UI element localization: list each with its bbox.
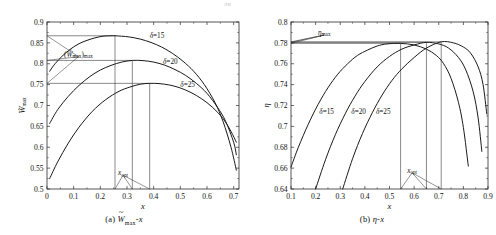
panel-b-plot: 0.10.20.30.40.50.60.70.80.90.640.660.680… (248, 0, 496, 235)
y-tick-label: 0.9 (34, 18, 44, 27)
x-tick-label: 0.6 (409, 192, 419, 201)
ann-subscript: opt (410, 169, 417, 175)
curve-δ=20 (316, 42, 482, 189)
x-tick-label: 0.7 (229, 192, 239, 201)
panel-a-caption-subscript: max (125, 220, 136, 226)
y-tick-label: 0.76 (274, 59, 287, 68)
panel-a-plot: 00.10.20.30.40.50.60.70.50.550.60.650.70… (0, 0, 248, 235)
ann-part: =20 (355, 108, 367, 116)
ann-subscript: opt (121, 172, 128, 178)
annotation-label: δ=25 (180, 81, 195, 89)
y-tick-label: 0.8 (34, 59, 44, 68)
y-tick-label: 0.66 (274, 164, 287, 173)
panel-a-caption: (a) Wmax-x (0, 214, 248, 226)
y-tick-label: 0.74 (274, 80, 287, 89)
annotation-label: xopt (406, 167, 417, 175)
ann-part: =25 (184, 81, 196, 89)
x-tick-label: 0.1 (286, 192, 296, 201)
y-tick-label: 0.6 (34, 143, 44, 152)
plot-area-a: 00.10.20.30.40.50.60.70.50.550.60.650.70… (17, 18, 239, 211)
y-tick-label: 0.64 (274, 185, 287, 194)
x-tick-label: 0.4 (149, 192, 159, 201)
curve-δ=15 (291, 43, 468, 167)
x-tick-label: 0.8 (459, 192, 469, 201)
annotation-label: δ=20 (351, 108, 366, 116)
y-tick-label: 0.75 (30, 80, 43, 89)
y-tick-label: 0.55 (30, 164, 43, 173)
y-tick-label: 0.8 (278, 18, 288, 27)
x-tick-label: 0 (45, 192, 49, 201)
y-axis-label: W̃max (17, 97, 27, 113)
leader-line (401, 173, 413, 189)
y-tick-label: 0.7 (278, 122, 288, 131)
annotation-label: δ=15 (150, 32, 165, 40)
x-tick-label: 0.1 (69, 192, 79, 201)
y-tick-label: 0.78 (274, 39, 287, 48)
x-tick-label: 0.3 (122, 192, 132, 201)
x-tick-label: 0.2 (311, 192, 321, 201)
annotation-label: (W̃max)max (64, 49, 93, 59)
panel-a-wmax-vs-x: 00.10.20.30.40.50.60.70.50.550.60.650.70… (0, 0, 248, 235)
x-axis-label: x (140, 201, 145, 211)
y-axis-label-subscript: max (21, 97, 27, 106)
x-tick-label: 0.7 (434, 192, 444, 201)
x-tick-label: 0.5 (176, 192, 186, 201)
ann-part: =15 (323, 108, 335, 116)
y-tick-label: 0.5 (34, 185, 44, 194)
x-tick-label: 0.4 (360, 192, 370, 201)
y-tick-label: 0.85 (30, 39, 43, 48)
ann-part: =15 (153, 32, 165, 40)
panel-b-caption-body: η-x (373, 214, 384, 224)
x-tick-label: 0.5 (385, 192, 395, 201)
x-tick-label: 0.2 (96, 192, 106, 201)
ann-part: =20 (166, 58, 178, 66)
annotation-label: ηmax (318, 29, 331, 37)
annotation-label: δ=15 (319, 108, 334, 116)
panel-b-caption-prefix: (b) (360, 214, 371, 224)
x-axis-label: x (387, 201, 392, 211)
annotation-label: δ=25 (376, 108, 391, 116)
y-tick-label: 0.65 (30, 122, 43, 131)
x-tick-label: 0.9 (483, 192, 493, 201)
y-axis-label: η (261, 103, 271, 107)
y-axis-label-symbol: η (261, 103, 271, 107)
ann-subscript: max (322, 31, 331, 37)
y-tick-label: 0.72 (274, 101, 287, 110)
panel-b-caption: (b) η-x (248, 214, 496, 224)
ann-subscript: max (84, 53, 93, 59)
y-tick-label: 0.7 (34, 101, 44, 110)
curve-δ=20 (50, 60, 237, 154)
panel-a-caption-prefix: (a) (105, 214, 115, 224)
annotation-label: xopt (117, 169, 128, 177)
ann-part: =25 (379, 108, 391, 116)
panel-a-caption-symbol: W (118, 214, 125, 224)
ann-subscript: max (73, 53, 82, 59)
panel-b-eta-vs-x: 0.10.20.30.40.50.60.70.80.90.640.660.680… (248, 0, 496, 235)
plot-frame (291, 22, 488, 189)
curve-δ=25 (50, 83, 237, 178)
plot-area-b: 0.10.20.30.40.50.60.70.80.90.640.660.680… (261, 18, 493, 211)
figure-container: ли 00.10.20.30.40.50.60.70.50.550.60.650… (0, 0, 496, 235)
y-tick-label: 0.68 (274, 143, 287, 152)
annotation-label: δ=20 (163, 58, 178, 66)
panel-a-caption-tail: -x (136, 214, 143, 224)
x-tick-label: 0.3 (336, 192, 346, 201)
x-tick-label: 0.6 (202, 192, 212, 201)
